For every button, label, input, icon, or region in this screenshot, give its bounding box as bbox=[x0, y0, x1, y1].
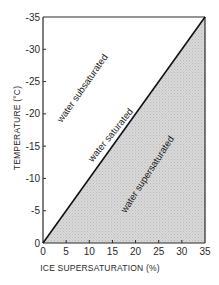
y-tick-label: -10 bbox=[26, 173, 41, 184]
y-tick-label: -35 bbox=[26, 12, 41, 23]
x-tick-label: 5 bbox=[63, 246, 69, 257]
label-water-subsaturated: water subsaturated bbox=[54, 52, 110, 125]
y-tick-label: 0 bbox=[34, 238, 40, 249]
y-tick-label: -30 bbox=[26, 44, 41, 55]
x-tick-label: 25 bbox=[153, 246, 165, 257]
x-tick-label: 15 bbox=[107, 246, 119, 257]
y-tick-label: -25 bbox=[26, 76, 41, 87]
x-tick-label: 35 bbox=[199, 246, 211, 257]
y-tick-label: -15 bbox=[26, 141, 41, 152]
y-axis-label: TEMPERATURE (°C) bbox=[12, 86, 22, 170]
chart: 05101520253035 0-5-10-15-20-25-30-35 ICE… bbox=[0, 0, 219, 285]
y-tick-label: -5 bbox=[31, 205, 40, 216]
y-tick-label: -20 bbox=[26, 108, 41, 119]
x-axis-label: ICE SUPERSATURATION (%) bbox=[40, 263, 160, 273]
x-tick-label: 30 bbox=[176, 246, 188, 257]
x-tick-label: 20 bbox=[130, 246, 142, 257]
x-tick-label: 10 bbox=[84, 246, 96, 257]
x-tick-label: 0 bbox=[40, 246, 46, 257]
